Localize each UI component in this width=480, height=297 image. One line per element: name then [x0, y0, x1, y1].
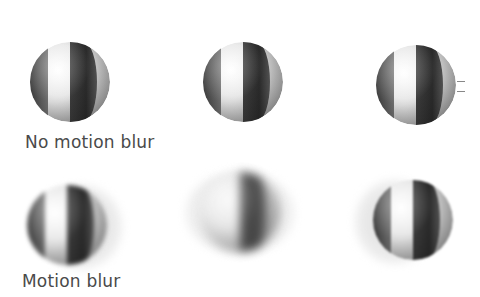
beach-ball-no-blur-right: [376, 45, 456, 125]
beach-ball-no-blur-left: [30, 42, 110, 122]
beach-ball-no-blur-middle: [203, 42, 283, 122]
beach-ball-blur-right: [373, 180, 453, 260]
beach-ball-blur-middle: [200, 172, 280, 252]
motion-tick-mark: [457, 91, 465, 92]
label-motion-blur: Motion blur: [22, 271, 121, 291]
beach-ball-blur-left: [27, 185, 107, 265]
motion-tick-mark: [457, 81, 465, 82]
label-no-motion-blur: No motion blur: [25, 132, 155, 152]
